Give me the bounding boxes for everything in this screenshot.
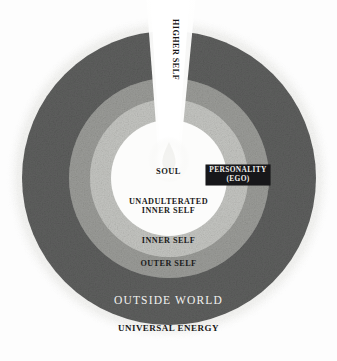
personality-ego-callout: PERSONALITY (EGO)	[206, 165, 270, 185]
personality-label-line2: (EGO)	[226, 175, 249, 184]
concentric-rings-diagram	[0, 0, 337, 361]
diagram-canvas: SOUL UNADULTERATED INNER SELF INNER SELF…	[0, 0, 337, 361]
soul-flame-icon	[148, 134, 190, 182]
